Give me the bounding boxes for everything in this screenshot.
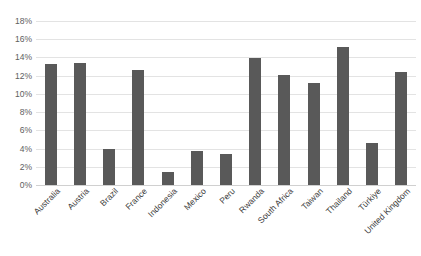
x-axis-tick-label: France: [124, 186, 150, 212]
x-axis-tick-label: Austria: [65, 186, 91, 212]
y-axis-tick-label: 12%: [0, 72, 32, 81]
bar[interactable]: [45, 64, 57, 185]
bar[interactable]: [395, 72, 407, 185]
bar[interactable]: [366, 143, 378, 185]
y-axis-tick-label: 4%: [0, 145, 32, 154]
y-axis-tick-label: 6%: [0, 126, 32, 135]
y-axis-tick-label: 2%: [0, 163, 32, 172]
x-axis-tick-label: Brazil: [98, 186, 120, 208]
bar-series: [36, 21, 416, 185]
x-axis-tick-label: Peru: [217, 186, 237, 206]
y-axis-tick-label: 14%: [0, 53, 32, 62]
x-axis: AustraliaAustriaBrazilFranceIndonesiaMex…: [36, 186, 416, 256]
x-axis-tick-label: Thailand: [324, 186, 354, 216]
bar[interactable]: [220, 154, 232, 185]
y-axis-tick-label: 8%: [0, 108, 32, 117]
y-axis-tick-label: 16%: [0, 35, 32, 44]
bar-chart: 18%16%14%12%10%8%6%4%2%0% AustraliaAustr…: [0, 0, 421, 256]
bar[interactable]: [132, 70, 144, 185]
bar[interactable]: [278, 75, 290, 185]
bar[interactable]: [74, 63, 86, 185]
x-axis-tick-label: Australia: [31, 186, 61, 216]
y-axis-tick-label: 0%: [0, 181, 32, 190]
x-axis-tick-label: Türkiye: [356, 186, 383, 213]
chart-title: [0, 0, 421, 2]
bar[interactable]: [308, 83, 320, 185]
x-axis-tick-label: Taiwan: [299, 186, 325, 212]
bar[interactable]: [103, 149, 115, 185]
bar[interactable]: [337, 47, 349, 185]
y-axis-tick-label: 10%: [0, 90, 32, 99]
x-axis-tick-label: Mexico: [182, 186, 208, 212]
bar[interactable]: [191, 151, 203, 185]
bar[interactable]: [162, 172, 174, 185]
bar[interactable]: [249, 58, 261, 185]
x-axis-tick-label: Indonesia: [145, 186, 178, 219]
y-axis: 18%16%14%12%10%8%6%4%2%0%: [0, 21, 32, 185]
y-axis-tick-label: 18%: [0, 17, 32, 26]
